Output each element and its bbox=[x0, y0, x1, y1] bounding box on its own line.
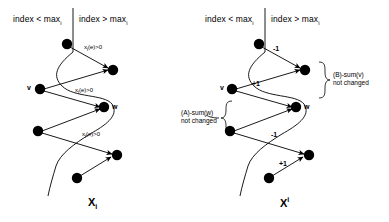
graph-node bbox=[300, 65, 310, 75]
header-index-greater-right: index > maxi bbox=[271, 14, 320, 26]
header-index-greater-left: index > maxi bbox=[79, 14, 128, 26]
annotation-A-line1: (A)-sum(w) bbox=[181, 109, 217, 117]
graph-node bbox=[304, 150, 314, 160]
serpentine-curve bbox=[48, 52, 114, 196]
graph-node-v bbox=[35, 84, 45, 94]
edge-arrow-5 bbox=[234, 133, 304, 154]
right-diagram-graphics bbox=[195, 0, 389, 222]
graph-node bbox=[112, 150, 122, 160]
graph-node bbox=[72, 173, 82, 183]
node-label-w-right: w bbox=[304, 103, 309, 110]
annotation-A-line2: not changed bbox=[181, 117, 217, 125]
sign-label-2: +1 bbox=[252, 80, 260, 87]
sign-label-3: -1 bbox=[271, 131, 277, 138]
graph-node bbox=[62, 39, 72, 49]
node-label-w-left: w bbox=[112, 103, 117, 110]
edge-arrow-3 bbox=[236, 91, 292, 107]
graph-node-v bbox=[227, 84, 237, 94]
graph-node bbox=[264, 173, 274, 183]
edge-arrow-1 bbox=[262, 47, 300, 68]
graph-node bbox=[33, 126, 43, 136]
edge-arrow-5 bbox=[42, 133, 112, 154]
edge-arrow-4 bbox=[234, 109, 292, 131]
edge-arrow-6 bbox=[272, 157, 303, 176]
figure-canvas: index < maxi index > maxi xi(e)>0 xi(e)>… bbox=[0, 0, 389, 222]
header-index-less-right: index < maxi bbox=[205, 14, 254, 26]
brace-right-B bbox=[319, 62, 330, 98]
diagram-panel-right: index < maxi index > maxi -1 +1 -1 +1 v … bbox=[195, 0, 389, 222]
diagram-panel-left: index < maxi index > maxi xi(e)>0 xi(e)>… bbox=[0, 0, 194, 222]
edge-label-x1: xi(e)>0 bbox=[84, 44, 102, 52]
sign-label-1: -1 bbox=[273, 45, 279, 52]
annotation-A-sum-w: (A)-sum(w) not changed bbox=[181, 109, 217, 125]
annotation-B-line2: not changed bbox=[333, 79, 369, 87]
graph-node bbox=[108, 65, 118, 75]
sign-label-4: +1 bbox=[279, 160, 287, 167]
node-label-v-left: v bbox=[27, 84, 31, 91]
caption-left: Xi bbox=[88, 196, 97, 210]
edge-label-x3: xi(e)>0 bbox=[82, 131, 100, 139]
caption-right: Xi bbox=[280, 196, 289, 209]
edge-arrow-2 bbox=[236, 70, 300, 89]
graph-node-w bbox=[99, 102, 109, 112]
edge-arrow-4 bbox=[42, 109, 100, 131]
graph-node bbox=[225, 126, 235, 136]
annotation-B-sum-v: (B)-sum(v) not changed bbox=[333, 71, 369, 87]
serpentine-curve bbox=[240, 52, 306, 196]
graph-node-w bbox=[291, 102, 301, 112]
graph-node bbox=[254, 39, 264, 49]
annotation-B-line1: (B)-sum(v) bbox=[333, 71, 369, 79]
left-diagram-graphics bbox=[0, 0, 194, 222]
edge-arrow-6 bbox=[80, 157, 111, 176]
node-label-v-right: v bbox=[220, 84, 224, 91]
header-index-less-left: index < maxi bbox=[13, 14, 62, 26]
edge-label-x2: xi(e)>0 bbox=[75, 87, 93, 95]
